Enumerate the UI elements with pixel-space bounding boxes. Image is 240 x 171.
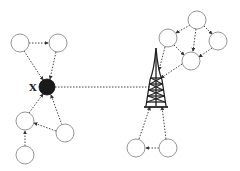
node <box>16 146 34 164</box>
node <box>159 29 177 47</box>
cell-tower-icon <box>144 48 168 107</box>
node <box>127 139 145 157</box>
node <box>159 139 177 157</box>
node <box>209 32 227 50</box>
node <box>49 34 67 52</box>
network-diagram: X <box>0 0 240 171</box>
node <box>182 52 200 70</box>
node <box>11 34 29 52</box>
node <box>56 124 74 142</box>
node <box>188 11 206 29</box>
hub-label: X <box>29 82 37 93</box>
hub-node <box>39 79 55 95</box>
node <box>16 112 34 130</box>
